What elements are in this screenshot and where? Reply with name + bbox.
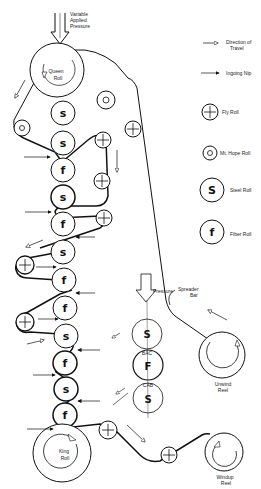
pressure-label-3: Pressure [70,23,90,29]
king-roll-label-2: Roll [61,455,70,461]
svg-text:Steel Roll: Steel Roll [230,187,251,193]
svg-text:F: F [145,361,152,372]
svg-text:Fiber Roll: Fiber Roll [230,231,251,237]
spreader-label-2: Bar [190,292,198,298]
legend-ingoing-nip: Ingoing Nip [201,70,252,76]
svg-text:s: s [60,191,67,204]
svg-text:f: f [63,302,68,315]
supercalender-diagram: Variable Applied Pressure Queen Roll s s… [0,0,261,489]
mt-hope-roll-left [14,120,30,136]
svg-text:s: s [63,330,70,343]
svg-text:S: S [143,329,150,340]
inset-pressure-label: Pressure [153,288,173,294]
legend-steel-roll: S Steel Roll [200,178,251,202]
stack-roll-10: f [53,351,77,375]
king-roll-label-1: King [59,448,69,454]
queen-roll-label-2: Roll [54,75,63,81]
svg-text:Travel: Travel [230,45,244,51]
svg-text:Ingoing Nip: Ingoing Nip [226,70,252,76]
stack-roll-3: f [51,158,75,182]
fly-roll-windup [161,447,177,463]
legend-direction-of-travel: Direction of Travel [203,39,252,51]
windup-label-2: Reel [221,480,231,486]
svg-text:f: f [61,164,66,177]
windup-reel: Windup Reel [205,433,243,486]
stack-roll-11: s [54,377,78,401]
svg-text:Mt. Hope Roll: Mt. Hope Roll [220,150,250,156]
stack-roll-7: f [52,268,76,292]
main-stack: s s f s f s f f s f s f [51,101,78,427]
fly-roll-right-1 [95,132,111,148]
fly-roll-right-3 [96,210,112,226]
queen-roll: Queen Roll [30,43,84,97]
fly-roll-right-2 [94,173,110,189]
direction-arrows [15,80,227,442]
queen-roll-label-1: Queen [48,68,63,74]
svg-text:f: f [63,357,68,370]
fly-roll-bottom [99,421,117,439]
stack-roll-5: f [51,212,75,236]
svg-text:s: s [60,246,67,259]
nip-label-bac: BAC [142,350,153,356]
svg-text:s: s [63,383,70,396]
mt-hope-roll-right [97,91,115,109]
unwind-label-2: Reel [218,387,228,393]
fly-roll-top-right [125,121,141,137]
inset-stack: Pressure S F S BAC CAB [112,274,173,418]
svg-text:f: f [210,226,215,239]
svg-text:S: S [208,184,216,197]
svg-text:s: s [60,107,67,120]
legend-mt-hope-roll: Mt. Hope Roll [203,146,250,160]
king-roll: King Roll [33,424,91,482]
fly-roll-left-1 [16,256,34,274]
stack-roll-9: s [54,324,78,348]
nip-label-cab: CAB [143,382,154,388]
stack-roll-1: s [51,101,75,125]
svg-text:Fly Roll: Fly Roll [222,109,239,115]
stack-roll-12: f [53,403,77,427]
legend: Direction of Travel Ingoing Nip Fly Roll… [200,39,252,244]
legend-fly-roll: Fly Roll [202,104,239,120]
stack-roll-4: s [51,185,75,209]
fly-roll-left-2 [16,313,34,331]
svg-text:f: f [61,218,66,231]
svg-text:f: f [62,274,67,287]
applied-pressure-arrow-icon [51,13,69,44]
stack-roll-8: f [53,296,77,320]
stack-roll-6: s [51,240,75,264]
legend-fiber-roll: f Fiber Roll [200,220,251,244]
unwind-reel: Unwind Reel [199,332,245,393]
svg-text:s: s [60,137,67,150]
svg-text:f: f [63,409,68,422]
stack-roll-2: s [51,131,75,155]
